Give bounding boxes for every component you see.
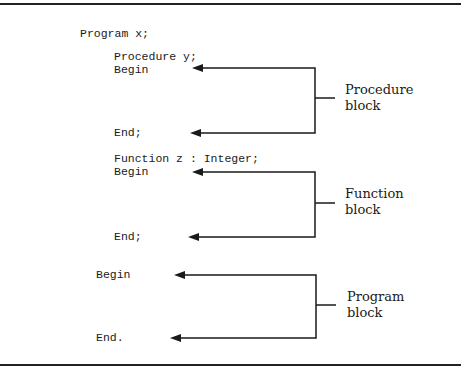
pascal-block-structure-diagram: Program x; Procedure y; Begin End; Funct… bbox=[0, 0, 461, 375]
arrow-program-end-icon bbox=[170, 334, 181, 342]
function-label-line2: block bbox=[345, 202, 404, 218]
arrow-program-begin-icon bbox=[174, 271, 185, 279]
program-label-line2: block bbox=[347, 305, 404, 321]
arrow-function-begin-icon bbox=[192, 168, 203, 176]
procedure-label-line2: block bbox=[345, 98, 413, 114]
arrow-procedure-begin-icon bbox=[192, 64, 203, 72]
program-block-label: Program block bbox=[347, 289, 404, 321]
function-label-line1: Function bbox=[345, 186, 404, 202]
arrow-procedure-end-icon bbox=[190, 129, 201, 137]
program-label-line1: Program bbox=[347, 289, 404, 305]
function-block-label: Function block bbox=[345, 186, 404, 218]
procedure-label-line1: Procedure bbox=[345, 82, 413, 98]
arrow-function-end-icon bbox=[188, 233, 199, 241]
procedure-block-label: Procedure block bbox=[345, 82, 413, 114]
